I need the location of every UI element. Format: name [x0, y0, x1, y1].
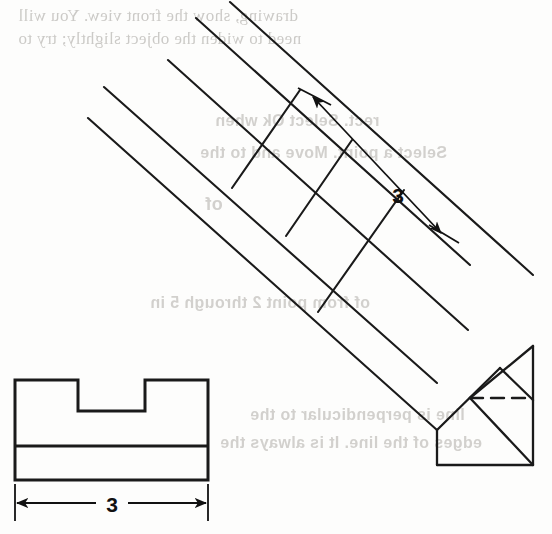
- end-face-diagonal: [470, 398, 533, 465]
- pictorial-dimension-line: [313, 97, 441, 233]
- front-view: [15, 380, 208, 480]
- prism-long-edge: [168, 60, 468, 330]
- technical-drawing-svg: 3 3: [0, 0, 552, 534]
- scanned-drawing-page: drawing, show the front view. You will n…: [0, 0, 552, 534]
- prism-long-edge: [196, 18, 470, 265]
- front-view-dimension-label: 3: [106, 493, 118, 516]
- prism-cross-line: [318, 190, 404, 312]
- front-view-outline: [15, 380, 208, 480]
- prism-long-edge: [88, 118, 437, 430]
- pictorial-dimension-label: 3: [392, 184, 404, 207]
- end-face-top-diagonal: [500, 368, 533, 400]
- prism-long-edge: [230, 2, 533, 275]
- pictorial-dimension-extension-start: [298, 88, 331, 105]
- pictorial-view: [88, 2, 533, 430]
- pictorial-dimension: [298, 88, 459, 243]
- prism-cross-line: [286, 140, 352, 236]
- prism-end-face: [437, 346, 533, 465]
- prism-cross-line: [232, 90, 300, 188]
